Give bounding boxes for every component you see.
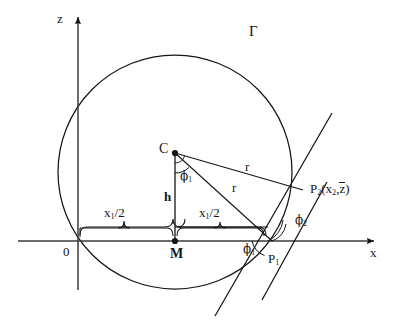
brace-right-detail: [177, 222, 264, 236]
curve-label-gamma: Γ: [249, 24, 258, 39]
phi-glyph-p1: ϕ: [243, 242, 251, 256]
axis-label-z: z: [57, 12, 63, 25]
point-label-p2: P2(x2,z): [310, 182, 350, 197]
brace-label-right: x1/2: [199, 206, 220, 221]
axis-label-x: x: [370, 246, 377, 259]
brace-left: [80, 219, 181, 235]
origin-label: 0: [63, 245, 70, 258]
brace-right-den: /2: [210, 205, 220, 220]
diagram-canvas: z x 0 Γ C M h r r ϕ1 ϕ1 ϕ2 P1 P2(x2,z) x…: [0, 0, 412, 333]
point-label-c: C: [159, 142, 168, 156]
phi-sub-center: 1: [188, 175, 192, 184]
point-marker-m: [172, 238, 178, 244]
angle-label-phi1-p1: ϕ1: [243, 243, 255, 256]
phi-sub-p2: 2: [303, 219, 307, 228]
segment-label-r-lower: r: [232, 181, 236, 194]
phi-glyph-p2: ϕ: [295, 213, 303, 227]
point-marker-c: [172, 150, 178, 156]
p1-sub: 1: [275, 258, 279, 267]
brace-left-den: /2: [115, 205, 125, 220]
brace-label-left: x1/2: [104, 206, 125, 221]
brace-left-detail: [80, 221, 173, 237]
phi-sub-p1: 1: [251, 248, 255, 257]
segment-label-h: h: [164, 190, 171, 203]
tangent-line-at-p1: [215, 113, 332, 316]
segment-r-upper: [175, 153, 303, 190]
angle-label-phi2: ϕ2: [295, 214, 307, 227]
diagram-vector-layer: [0, 0, 412, 333]
angle-label-phi1-center: ϕ1: [180, 170, 192, 183]
point-label-m: M: [170, 247, 183, 261]
phi-glyph-center: ϕ: [180, 169, 188, 183]
p2-paren-open: (x: [321, 181, 332, 196]
point-label-p1: P1: [268, 252, 279, 267]
p2-paren-close: ): [345, 181, 349, 196]
segment-label-r-upper: r: [245, 160, 249, 173]
